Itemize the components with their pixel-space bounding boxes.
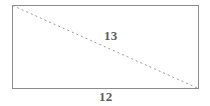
base-length-label: 12 bbox=[99, 90, 112, 103]
diagonal-length-label: 13 bbox=[104, 29, 117, 42]
diagonal-dashed-line bbox=[13, 6, 199, 89]
geometry-figure: 13 12 bbox=[0, 0, 210, 106]
